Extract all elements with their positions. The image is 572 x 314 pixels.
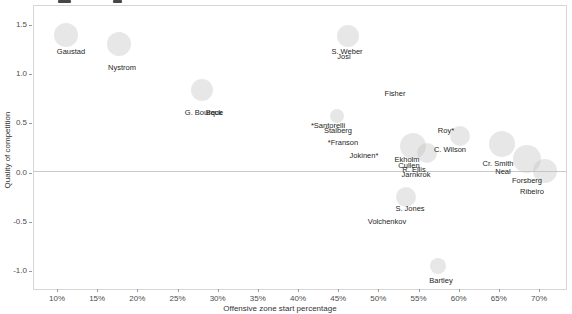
- x-tick-mark: [298, 289, 299, 292]
- x-tick-mark: [137, 289, 138, 292]
- point-label: Neal: [495, 168, 510, 176]
- point-label: *Franson: [328, 139, 358, 147]
- point-label: Josi: [337, 53, 350, 61]
- point-label: S. Jones: [395, 205, 424, 213]
- x-tick-label: 15%: [89, 295, 105, 303]
- y-tick-mark: [29, 222, 32, 223]
- point-label: Fisher: [385, 90, 406, 98]
- point-label: Bartley: [429, 277, 452, 285]
- x-tick-label: 20%: [129, 295, 145, 303]
- x-tick-mark: [218, 289, 219, 292]
- y-tick-mark: [29, 271, 32, 272]
- y-tick-mark: [29, 25, 32, 26]
- y-axis-title: Quality of competition: [4, 112, 12, 189]
- x-tick-mark: [258, 289, 259, 292]
- point-label: C. Wilson: [434, 146, 466, 154]
- data-bubble: [191, 79, 213, 101]
- point-label: Ribeiro: [520, 188, 544, 196]
- data-bubble: [489, 131, 515, 157]
- zero-reference-line: [33, 171, 566, 172]
- x-tick-label: 70%: [531, 295, 547, 303]
- data-bubble: [107, 32, 131, 56]
- x-tick-label: 35%: [250, 295, 266, 303]
- data-bubble: [337, 25, 359, 47]
- player-usage-chart: GaustadNystromG. BourqueBeckS. WeberJosi…: [0, 0, 572, 314]
- x-tick-label: 30%: [210, 295, 226, 303]
- x-tick-label: 40%: [290, 295, 306, 303]
- cropped-title-fragment: [113, 0, 122, 3]
- x-tick-label: 50%: [370, 295, 386, 303]
- x-tick-mark: [338, 289, 339, 292]
- x-axis-title: Offensive zone start percentage: [223, 305, 336, 313]
- point-label: Jokinen*: [350, 152, 379, 160]
- point-label: Nystrom: [108, 64, 136, 72]
- y-tick-label: 0.0: [16, 169, 27, 177]
- x-tick-mark: [57, 289, 58, 292]
- data-bubble: [430, 258, 446, 274]
- x-tick-label: 65%: [491, 295, 507, 303]
- x-tick-mark: [178, 289, 179, 292]
- x-tick-mark: [419, 289, 420, 292]
- point-label: Roy*: [438, 127, 454, 135]
- x-tick-label: 25%: [169, 295, 185, 303]
- y-tick-label: -1.0: [13, 267, 27, 275]
- x-tick-mark: [378, 289, 379, 292]
- x-tick-mark: [539, 289, 540, 292]
- x-tick-label: 60%: [451, 295, 467, 303]
- y-tick-mark: [29, 173, 32, 174]
- x-tick-label: 55%: [411, 295, 427, 303]
- y-tick-label: 1.5: [16, 21, 27, 29]
- x-tick-mark: [499, 289, 500, 292]
- x-tick-label: 45%: [330, 295, 346, 303]
- point-label: Beck: [206, 109, 223, 117]
- y-tick-label: 1.0: [16, 70, 27, 78]
- point-label: Forsberg: [512, 177, 542, 185]
- y-tick-label: 0.5: [16, 119, 27, 127]
- point-label: Gaustad: [57, 48, 85, 56]
- x-tick-mark: [97, 289, 98, 292]
- x-tick-label: 10%: [49, 295, 65, 303]
- y-tick-label: -0.5: [13, 218, 27, 226]
- point-label: Jarnkrok: [402, 171, 431, 179]
- point-label: Volchenkov: [368, 218, 406, 226]
- cropped-title-fragment: [58, 0, 71, 3]
- x-tick-mark: [459, 289, 460, 292]
- y-tick-mark: [29, 123, 32, 124]
- data-bubble: [54, 23, 78, 47]
- y-tick-mark: [29, 74, 32, 75]
- point-label: Stalberg: [324, 127, 352, 135]
